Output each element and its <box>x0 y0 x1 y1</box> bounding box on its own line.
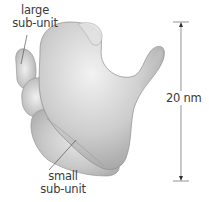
large-subunit-label-line2: sub-unit <box>6 17 64 30</box>
large-subunit-label: large sub-unit <box>6 4 64 30</box>
small-subunit-label-line2: sub-unit <box>34 183 92 196</box>
small-subunit-label: small sub-unit <box>34 170 92 196</box>
arrow-up-icon <box>179 22 183 27</box>
arrow-down-icon <box>179 176 183 181</box>
scale-bar-label: 20 nm <box>165 91 202 105</box>
ribosome-figure: large sub-unit small sub-unit 20 nm <box>0 0 209 202</box>
